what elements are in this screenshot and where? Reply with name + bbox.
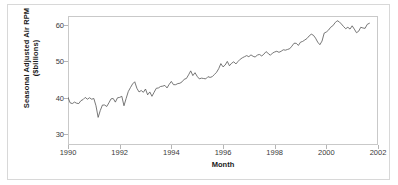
x-tick-mark	[68, 145, 69, 149]
x-tick-label: 2002	[358, 148, 398, 157]
y-tick-label: 40	[42, 93, 64, 102]
series-line-seasonal-adjusted-air-rpm	[68, 21, 369, 118]
y-tick-label: 50	[42, 57, 64, 66]
x-axis-title: Month	[68, 160, 378, 169]
x-tick-mark	[120, 145, 121, 149]
x-tick-label: 2000	[306, 148, 346, 157]
x-tick-mark	[223, 145, 224, 149]
y-axis-title-line-2: ($billions)	[31, 40, 40, 77]
x-tick-mark	[275, 145, 276, 149]
plot-area	[68, 16, 378, 145]
x-tick-label: 1990	[48, 148, 88, 157]
x-tick-label: 1996	[203, 148, 243, 157]
chart-screenshot: Seasonal Adjusted Air RPM ($billions) 30…	[0, 0, 398, 185]
y-tick-label: 30	[42, 130, 64, 139]
y-axis-tick-labels: 30405060	[42, 0, 64, 185]
y-tick-label: 60	[42, 21, 64, 30]
x-tick-label: 1998	[255, 148, 295, 157]
y-axis-title-line-1: Seasonal Adjusted Air RPM	[22, 8, 31, 108]
x-tick-mark	[171, 145, 172, 149]
x-tick-label: 1994	[151, 148, 191, 157]
x-tick-mark	[326, 145, 327, 149]
x-tick-mark	[378, 145, 379, 149]
x-tick-label: 1992	[100, 148, 140, 157]
